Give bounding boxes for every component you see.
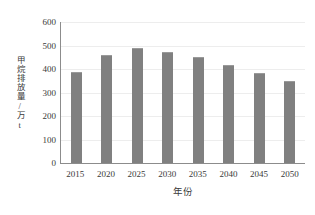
bar — [101, 55, 112, 163]
y-axis-title-text: 甲烷排放量/万t — [14, 56, 24, 130]
bar — [193, 57, 204, 163]
bar — [223, 65, 234, 163]
y-axis-tick-label: 200 — [43, 112, 57, 121]
bar-slot — [61, 22, 92, 163]
bar-slot — [92, 22, 123, 163]
x-axis-title: 年份 — [60, 186, 305, 198]
bar — [162, 52, 173, 163]
bar — [132, 48, 143, 163]
x-axis-tick-labels: 20152020202520302035204020452050 — [60, 168, 305, 182]
y-axis-tick-label: 500 — [43, 41, 57, 50]
x-axis-tick-label: 2035 — [183, 168, 214, 182]
bar-chart-figure: 甲烷排放量/万t 0100200300400500600 20152020202… — [0, 0, 315, 215]
x-axis-tick-label: 2020 — [91, 168, 122, 182]
x-axis-title-text: 年份 — [173, 187, 193, 197]
x-axis-tick-label: 2050 — [274, 168, 305, 182]
y-axis-tick-label: 600 — [43, 18, 57, 27]
y-axis-tick-label: 0 — [52, 159, 57, 168]
x-axis-tick-label: 2015 — [60, 168, 91, 182]
y-axis-tick-label: 300 — [43, 88, 57, 97]
y-axis-title: 甲烷排放量/万t — [10, 38, 28, 148]
bar — [284, 81, 295, 163]
bar-series — [61, 22, 305, 163]
bar-slot — [153, 22, 184, 163]
x-axis-tick-label: 2045 — [244, 168, 275, 182]
x-axis-line — [60, 163, 305, 164]
bar-slot — [183, 22, 214, 163]
bar — [71, 72, 82, 163]
y-axis-tick-label: 100 — [43, 135, 57, 144]
bar — [254, 73, 265, 163]
bar-slot — [122, 22, 153, 163]
y-axis-tick-label: 400 — [43, 65, 57, 74]
bar-slot — [275, 22, 306, 163]
x-axis-tick-label: 2040 — [213, 168, 244, 182]
plot-area — [60, 22, 305, 163]
bar-slot — [244, 22, 275, 163]
y-axis-tick-labels: 0100200300400500600 — [28, 16, 56, 164]
bar-slot — [214, 22, 245, 163]
x-axis-tick-label: 2025 — [121, 168, 152, 182]
x-axis-tick-label: 2030 — [152, 168, 183, 182]
